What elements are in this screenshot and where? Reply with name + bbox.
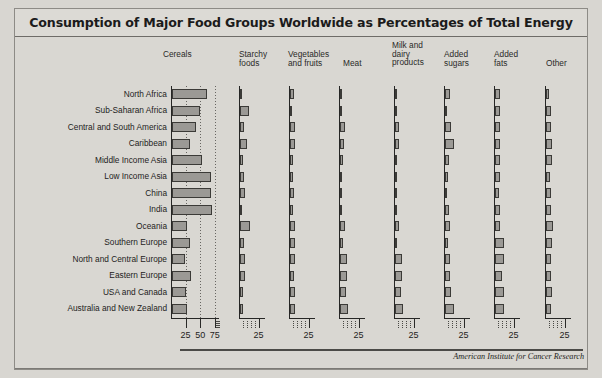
row-label: Southern Europe (104, 237, 167, 247)
panel-meat (339, 86, 369, 318)
row-label: Sub-Saharan Africa (95, 105, 167, 115)
axis-minor-tick (553, 321, 554, 328)
bar (172, 106, 200, 116)
bar (172, 122, 196, 132)
bar (495, 139, 500, 149)
axis-minor-tick (247, 321, 248, 328)
row-label: Australia and New Zealand (67, 303, 167, 313)
row-label: Caribbean (129, 138, 167, 148)
column-header-added-fats: Added fats (494, 50, 518, 67)
axis-minor-tick (297, 321, 298, 328)
bar (546, 238, 552, 248)
panel-axis (171, 86, 172, 318)
gridline (200, 86, 201, 318)
row-label: Low Income Asia (104, 171, 167, 181)
axis-tick-label: 25 (458, 330, 468, 340)
bar (240, 304, 243, 314)
bar (290, 106, 292, 116)
bar (340, 172, 342, 182)
bar (240, 172, 244, 182)
bar (172, 254, 185, 264)
row-label: Central and South America (68, 122, 167, 132)
bar (395, 106, 397, 116)
bar (395, 304, 403, 314)
panel-axis (494, 86, 495, 318)
bar (240, 271, 245, 281)
bar (240, 188, 245, 198)
axis-minor-tick (293, 321, 294, 328)
bar (290, 254, 295, 264)
bar (445, 172, 448, 182)
bar (172, 287, 186, 297)
panel-baseline (394, 318, 420, 319)
bar (546, 188, 551, 198)
bar (290, 221, 295, 231)
source-credit: American Institute for Cancer Research (453, 352, 584, 361)
bar (445, 89, 450, 99)
axis-tick-label: 75 (210, 330, 220, 340)
bar (445, 139, 454, 149)
panel-baseline (171, 318, 219, 319)
panel-cereals (171, 86, 223, 318)
axis-minor-tick (301, 321, 302, 328)
bar (340, 287, 346, 297)
row-label: China (145, 188, 167, 198)
bar (340, 221, 345, 231)
bar (290, 304, 295, 314)
row-label-column: North AfricaSub-Saharan AfricaCentral an… (12, 0, 167, 378)
panel-vegetables-and-fruits (289, 86, 319, 318)
bar (290, 172, 293, 182)
bar (340, 89, 342, 99)
panel-axis (444, 86, 445, 318)
bar (395, 122, 399, 132)
axis-minor-tick (460, 321, 461, 328)
bar (172, 139, 190, 149)
bar (495, 89, 500, 99)
panel-other (545, 86, 575, 318)
bar (395, 139, 399, 149)
bar (395, 271, 402, 281)
bar (172, 172, 211, 182)
bar (546, 205, 551, 215)
bar (340, 304, 348, 314)
column-header-added-sugars: Added sugars (444, 50, 469, 67)
bar (395, 238, 397, 248)
bar (445, 254, 450, 264)
bar (172, 271, 191, 281)
axis-minor-tick (561, 321, 562, 328)
bar (340, 254, 347, 264)
bar (172, 89, 207, 99)
bar (290, 155, 293, 165)
axis-minor-tick (255, 321, 256, 328)
axis-tick (414, 319, 415, 328)
chart-figure: Consumption of Major Food Groups Worldwi… (0, 0, 602, 378)
bar (546, 89, 549, 99)
panel-starchy-foods (239, 86, 269, 318)
footer-divider (180, 349, 583, 351)
bar (445, 106, 447, 116)
axis-tick-label: 25 (559, 330, 569, 340)
bar (495, 221, 500, 231)
bar (240, 287, 243, 297)
bar (290, 287, 295, 297)
bar (340, 122, 345, 132)
axis-tick-label: 25 (181, 330, 191, 340)
column-header-meat: Meat (343, 59, 361, 68)
bar (395, 155, 397, 165)
axis-minor-tick (502, 321, 503, 328)
axis-minor-tick (251, 321, 252, 328)
bar (495, 122, 500, 132)
axis-minor-tick (402, 321, 403, 328)
bar (546, 287, 552, 297)
bar (395, 221, 399, 231)
axis-minor-tick (557, 321, 558, 328)
bar (546, 122, 551, 132)
bar (546, 221, 553, 231)
bar (340, 106, 342, 116)
axis-minor-tick (343, 321, 344, 328)
bar (445, 221, 450, 231)
axis-tick (464, 319, 465, 328)
bar (395, 172, 397, 182)
axis-tick (514, 319, 515, 328)
bar (340, 139, 344, 149)
